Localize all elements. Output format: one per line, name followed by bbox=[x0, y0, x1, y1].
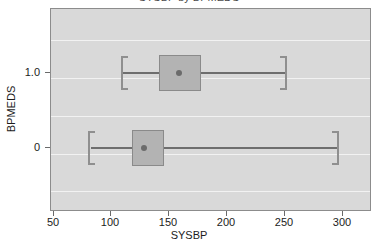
chart-title: SYSBP by BPMEDS bbox=[0, 0, 378, 3]
whisker-high-line bbox=[201, 72, 286, 74]
x-tick-label: 50 bbox=[33, 216, 73, 228]
boxplot-figure: SYSBP by BPMEDS 50 100 bbox=[0, 0, 378, 249]
x-tick-label: 150 bbox=[148, 216, 188, 228]
plot-panel bbox=[50, 8, 371, 211]
whisker-cap-high bbox=[332, 131, 339, 165]
whisker-cap-low bbox=[121, 56, 128, 90]
whisker-cap-low bbox=[88, 131, 95, 165]
y-axis-title: BPMEDS bbox=[5, 59, 17, 159]
whisker-low-line bbox=[123, 72, 159, 74]
whisker-high-line bbox=[164, 147, 338, 149]
gridline bbox=[51, 154, 370, 155]
x-tick-label: 250 bbox=[264, 216, 304, 228]
whisker-cap-high bbox=[280, 56, 287, 90]
gridline bbox=[51, 40, 370, 41]
x-tick-label: 100 bbox=[90, 216, 130, 228]
mean-marker bbox=[141, 145, 147, 151]
gridline bbox=[51, 191, 370, 192]
mean-marker bbox=[176, 70, 182, 76]
whisker-low-line bbox=[91, 147, 132, 149]
x-axis-title: SYSBP bbox=[0, 229, 378, 241]
x-tick-label: 200 bbox=[206, 216, 246, 228]
y-tick-mark bbox=[45, 72, 50, 73]
x-tick-label: 300 bbox=[322, 216, 362, 228]
box-iqr bbox=[132, 130, 164, 166]
gridline bbox=[51, 78, 370, 79]
gridline bbox=[51, 116, 370, 117]
y-tick-mark bbox=[45, 147, 50, 148]
